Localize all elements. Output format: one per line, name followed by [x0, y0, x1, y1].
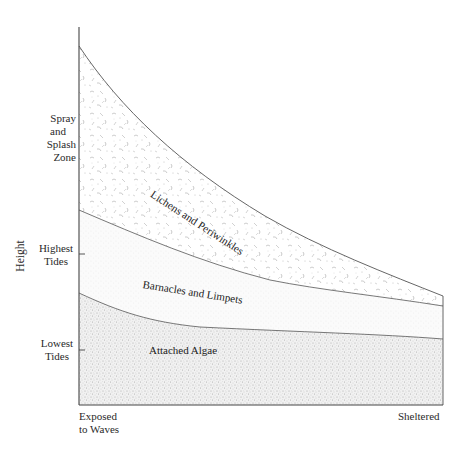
level-label-spray-splash: Spray and Splash Zone	[40, 112, 76, 164]
zone-label-attached-algae: Attached Algae	[149, 344, 217, 356]
level-label-highest-tides: Highest Tides	[36, 242, 76, 268]
level-label-line: Lowest	[38, 337, 76, 350]
x-label-sheltered: Sheltered	[398, 410, 440, 423]
level-label-lowest-tides: Lowest Tides	[38, 337, 76, 363]
level-label-line: Spray	[40, 112, 76, 125]
x-label-line: Exposed	[79, 410, 119, 423]
y-axis-label: Height	[14, 240, 26, 271]
level-label-line: Tides	[36, 255, 76, 268]
level-label-line: Tides	[38, 350, 76, 363]
level-label-line: Highest	[36, 242, 76, 255]
x-label-exposed: Exposed to Waves	[79, 410, 119, 436]
level-label-line: and	[40, 125, 76, 138]
diagram-canvas	[0, 0, 461, 452]
x-label-line: to Waves	[79, 423, 119, 436]
level-label-line: Splash	[40, 138, 76, 151]
intertidal-zonation-diagram: Height Spray and Splash Zone Highest Tid…	[0, 0, 461, 452]
level-label-line: Zone	[40, 151, 76, 164]
